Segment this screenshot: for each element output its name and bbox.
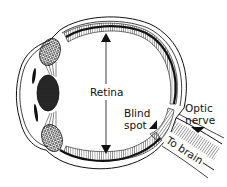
label-optic-nerve-line1: Optic xyxy=(185,102,213,114)
label-blind-spot-line2: spot xyxy=(124,119,147,131)
eye-diagram: Retina Blind spot Optic nerve To brain xyxy=(0,0,227,187)
lens xyxy=(37,75,59,111)
label-optic-nerve-line2: nerve xyxy=(185,114,215,126)
label-blind-spot-line1: Blind xyxy=(124,107,150,119)
label-retina: Retina xyxy=(90,86,123,98)
